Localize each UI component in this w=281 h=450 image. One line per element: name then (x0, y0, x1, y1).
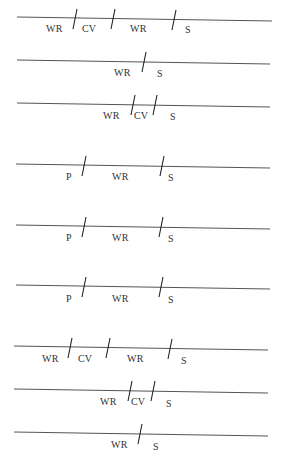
segment-label: WR (111, 440, 128, 450)
boundary-slash (168, 339, 172, 359)
segment-label: CV (131, 397, 145, 407)
segment-label: S (170, 112, 176, 122)
timeline-line (14, 346, 268, 350)
segment-label: WR (112, 294, 129, 304)
boundary-slash (172, 10, 176, 30)
segment-label: WR (103, 111, 120, 121)
timeline-row (17, 52, 270, 72)
boundary-slash (82, 277, 86, 297)
segment-label: WR (112, 233, 129, 243)
segment-label: CV (134, 111, 148, 121)
timeline-line (16, 225, 270, 229)
boundary-slash (68, 338, 72, 358)
segmentation-diagram (0, 0, 281, 450)
segment-label: S (185, 25, 191, 35)
boundary-slash (73, 9, 77, 29)
boundary-slash (82, 217, 86, 237)
segment-label: CV (78, 354, 92, 364)
segment-label: WR (130, 24, 147, 34)
segment-label: P (66, 294, 72, 304)
segment-label: WR (114, 68, 131, 78)
segment-label: S (166, 399, 172, 409)
timeline-row (16, 217, 270, 237)
segment-label: S (153, 442, 159, 450)
segment-label: S (181, 356, 187, 366)
timeline-line (16, 285, 270, 289)
segment-label: S (157, 69, 163, 79)
timeline-line (14, 389, 268, 393)
boundary-slash (82, 156, 86, 176)
segment-label: WR (127, 354, 144, 364)
segment-label: S (168, 295, 174, 305)
timeline-row (16, 156, 270, 176)
timeline-line (17, 17, 272, 21)
timeline-row (16, 277, 270, 297)
segment-label: S (168, 173, 174, 183)
timeline-row (14, 424, 268, 444)
timeline-line (17, 103, 270, 107)
timeline-line (14, 432, 268, 436)
segment-label: CV (82, 24, 96, 34)
segment-label: WR (112, 172, 129, 182)
segment-label: WR (42, 354, 59, 364)
segment-label: P (66, 172, 72, 182)
timeline-line (16, 164, 270, 168)
segment-label: WR (100, 397, 117, 407)
segment-label: S (168, 234, 174, 244)
segment-label: P (66, 233, 72, 243)
segment-label: WR (46, 24, 63, 34)
